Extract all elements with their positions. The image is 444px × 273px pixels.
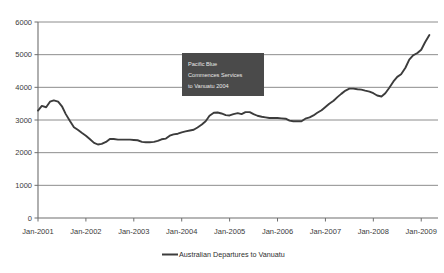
gridlines-group <box>38 22 438 185</box>
x-tick-label: Jan-2004 <box>166 227 197 236</box>
y-tick-label: 1000 <box>15 181 32 190</box>
y-axis-tick-labels: 0100020003000400050006000 <box>15 18 38 223</box>
x-tick-label: Jan-2006 <box>262 227 293 236</box>
annotation-text-line: Commences Services <box>188 72 243 78</box>
x-tick-label: Jan-2007 <box>310 227 341 236</box>
x-tick-label: Jan-2008 <box>358 227 389 236</box>
x-tick-label: Jan-2003 <box>118 227 149 236</box>
y-tick-label: 6000 <box>15 18 32 27</box>
chart-legend: Australian Departures to Vanuatu <box>162 250 285 259</box>
x-tick-label: Jan-2001 <box>22 227 53 236</box>
annotation-group: Pacific BlueCommences Servicesto Vanuatu… <box>182 53 264 96</box>
line-chart: 0100020003000400050006000 Jan-2001Jan-20… <box>0 0 444 273</box>
annotation-text-line: Pacific Blue <box>188 61 217 67</box>
y-tick-label: 0 <box>28 214 32 223</box>
x-axis-tick-labels: Jan-2001Jan-2002Jan-2003Jan-2004Jan-2005… <box>22 218 437 236</box>
x-tick-label: Jan-2009 <box>406 227 437 236</box>
annotation-text-line: to Vanuatu 2004 <box>188 83 229 89</box>
y-tick-label: 3000 <box>15 116 32 125</box>
y-tick-label: 5000 <box>15 50 32 59</box>
y-tick-label: 2000 <box>15 148 32 157</box>
x-tick-label: Jan-2005 <box>214 227 245 236</box>
chart-container: 0100020003000400050006000 Jan-2001Jan-20… <box>0 0 444 273</box>
x-tick-label: Jan-2002 <box>70 227 101 236</box>
y-tick-label: 4000 <box>15 83 32 92</box>
legend-label: Australian Departures to Vanuatu <box>179 250 285 259</box>
